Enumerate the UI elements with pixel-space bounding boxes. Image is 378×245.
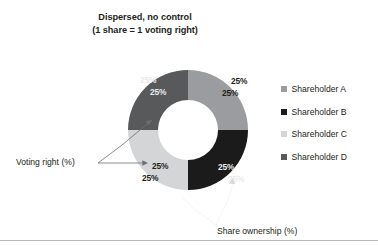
slice-label-b-voting-right: 25%	[228, 174, 244, 184]
legend-item-label: Shareholder D	[292, 152, 347, 162]
leader-line-share-ownership-right	[216, 184, 233, 225]
legend-item-label: Shareholder A	[292, 84, 346, 94]
slice-label-d-voting-right: 25%	[150, 87, 166, 97]
chart-title: Dispersed, no control (1 share = 1 votin…	[0, 11, 290, 36]
slice-label-a-voting-right: 25%	[222, 88, 238, 98]
chart-legend: Shareholder A Shareholder B Shareholder …	[281, 78, 347, 168]
slice-label-c-voting-right: 25%	[152, 161, 168, 171]
leader-line-share-ownership-left	[182, 197, 216, 225]
callout-label-share-ownership: Share ownership (%)	[217, 226, 297, 236]
legend-item-shareholder-d[interactable]: Shareholder D	[281, 146, 347, 169]
legend-item-shareholder-c[interactable]: Shareholder C	[281, 123, 347, 146]
chart-title-line-2: (1 share = 1 voting right)	[0, 24, 290, 37]
legend-item-shareholder-a[interactable]: Shareholder A	[281, 78, 347, 101]
legend-item-label: Shareholder C	[292, 129, 347, 139]
slice-label-b-share-ownership: 25%	[218, 162, 234, 172]
donut-slice-shareholder-d[interactable]	[128, 70, 188, 130]
legend-item-label: Shareholder B	[292, 107, 347, 117]
bottom-divider	[0, 240, 378, 241]
slice-label-a-share-ownership: 25%	[231, 76, 247, 86]
slice-label-d-share-ownership: 25%	[140, 75, 156, 85]
legend-swatch-icon	[281, 154, 287, 160]
chart-canvas: Dispersed, no control (1 share = 1 votin…	[0, 0, 378, 245]
legend-swatch-icon	[281, 109, 287, 115]
legend-swatch-icon	[281, 86, 287, 92]
legend-item-shareholder-b[interactable]: Shareholder B	[281, 101, 347, 124]
chart-title-line-1: Dispersed, no control	[0, 11, 290, 24]
callout-label-voting-right: Voting right (%)	[16, 157, 75, 167]
legend-swatch-icon	[281, 131, 287, 137]
slice-label-c-share-ownership: 25%	[142, 173, 158, 183]
